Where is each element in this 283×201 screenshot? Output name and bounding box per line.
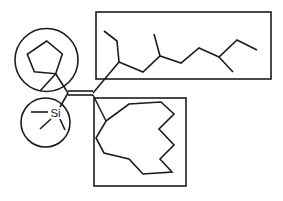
bond-ring-methyl: [40, 74, 56, 91]
chain-ethyl-branch: [104, 31, 119, 62]
highlight-circle-trimethylsilyl: [21, 98, 70, 147]
chain-methyl-branch-2: [219, 57, 233, 72]
chain-main: [119, 40, 257, 72]
si-methyl-down-right: [60, 119, 65, 130]
highlight-circle-cyclopentyl: [15, 29, 78, 92]
bond-c2-to-macrocycle: [93, 95, 106, 121]
chemical-structure-figure: Si: [0, 0, 283, 201]
cyclopentane-ring: [27, 41, 62, 74]
si-atom-label: Si: [50, 107, 60, 119]
bond-c1-to-si: [60, 93, 68, 107]
highlight-box-alkyl-chain: [96, 12, 271, 79]
bond-c2-to-chain: [93, 62, 119, 93]
structure-canvas: Si: [0, 0, 283, 201]
macrocycle-ring: [96, 102, 174, 174]
si-methyl-down-left: [40, 119, 51, 129]
chain-methyl-branch-1: [154, 34, 160, 56]
